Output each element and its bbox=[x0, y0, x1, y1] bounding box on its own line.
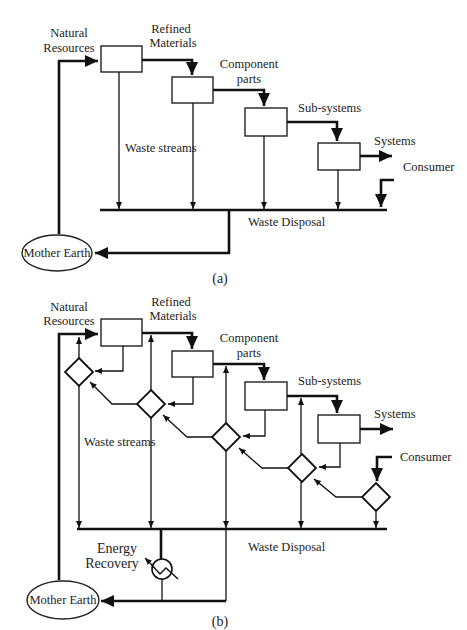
label-energy-recovery-line2: Recovery bbox=[85, 556, 139, 571]
consumer-flow bbox=[377, 457, 392, 481]
label-component-parts-line2: parts bbox=[237, 72, 261, 86]
sub-systems-box bbox=[245, 382, 287, 410]
label-sub-systems: Sub-systems bbox=[298, 101, 361, 115]
label-sub-systems: Sub-systems bbox=[298, 374, 361, 388]
label-natural-resources-line1: Natural bbox=[50, 26, 88, 40]
label-energy-recovery-line1: Energy bbox=[97, 541, 137, 556]
label-natural-resources-line2: Resources bbox=[43, 314, 95, 328]
natural-resources-flow bbox=[59, 61, 98, 234]
label-waste-streams: Waste streams bbox=[84, 435, 156, 449]
flow-subsystem-to-systems bbox=[287, 396, 337, 413]
refined-materials-box bbox=[101, 46, 142, 72]
recycle-node-2 bbox=[137, 390, 165, 418]
caption-a: (a) bbox=[212, 271, 228, 287]
label-refined-materials-line2: Materials bbox=[149, 309, 196, 323]
label-component-parts-line2: parts bbox=[237, 346, 261, 360]
label-waste-disposal: Waste Disposal bbox=[248, 540, 326, 554]
label-consumer: Consumer bbox=[403, 160, 455, 174]
recycle-node-1 bbox=[65, 358, 93, 386]
label-systems: Systems bbox=[374, 134, 416, 148]
consumer-waste-flow bbox=[381, 180, 394, 207]
recycle3-to-recycle2 bbox=[163, 415, 212, 437]
diagram-a: Natural Resources Refined Materials Comp… bbox=[22, 22, 455, 287]
component-parts-box bbox=[172, 77, 213, 103]
disposal-return-flow bbox=[95, 210, 229, 253]
waste-box1-to-recycle1 bbox=[95, 346, 123, 371]
systems-box bbox=[318, 415, 360, 443]
label-mother-earth: Mother Earth bbox=[24, 246, 92, 260]
label-natural-resources-line1: Natural bbox=[50, 300, 88, 314]
flow-component-to-subsystem bbox=[213, 364, 264, 380]
label-consumer: Consumer bbox=[400, 450, 452, 464]
label-component-parts-line1: Component bbox=[220, 331, 279, 345]
recycle5-to-recycle4 bbox=[314, 479, 362, 497]
systems-box bbox=[318, 143, 360, 170]
recycle-node-4 bbox=[288, 454, 316, 482]
waste-box2-to-recycle2 bbox=[168, 377, 193, 404]
label-refined-materials-line1: Refined bbox=[151, 295, 191, 309]
caption-b: (b) bbox=[212, 614, 229, 630]
label-waste-disposal: Waste Disposal bbox=[248, 215, 326, 229]
flow-refined-to-component bbox=[142, 60, 192, 75]
flow-subsystem-to-systems bbox=[287, 122, 337, 141]
waste-box4-to-recycle4 bbox=[319, 443, 340, 467]
diagram-b: Natural Resources Refined Materials Comp… bbox=[27, 295, 452, 630]
recycle-node-5 bbox=[362, 483, 390, 511]
recycle4-to-recycle3 bbox=[239, 448, 288, 468]
flow-component-to-subsystem bbox=[213, 90, 264, 106]
component-parts-box bbox=[172, 351, 213, 377]
label-component-parts-line1: Component bbox=[220, 57, 279, 71]
recycle-node-3 bbox=[212, 423, 240, 451]
label-natural-resources-line2: Resources bbox=[43, 41, 95, 55]
energy-output-arrow bbox=[145, 558, 150, 563]
label-mother-earth: Mother Earth bbox=[30, 593, 98, 607]
flow-refined-to-component bbox=[142, 333, 192, 349]
recycle2-to-recycle1 bbox=[90, 382, 137, 404]
waste-box3-to-recycle3 bbox=[243, 410, 265, 436]
label-waste-streams: Waste streams bbox=[125, 141, 197, 155]
label-refined-materials-line2: Materials bbox=[149, 36, 196, 50]
sub-systems-box bbox=[245, 108, 287, 136]
refined-materials-box bbox=[101, 319, 142, 346]
label-systems: Systems bbox=[374, 407, 416, 421]
label-refined-materials-line1: Refined bbox=[151, 22, 191, 36]
lifecycle-diagrams: Natural Resources Refined Materials Comp… bbox=[0, 0, 467, 630]
